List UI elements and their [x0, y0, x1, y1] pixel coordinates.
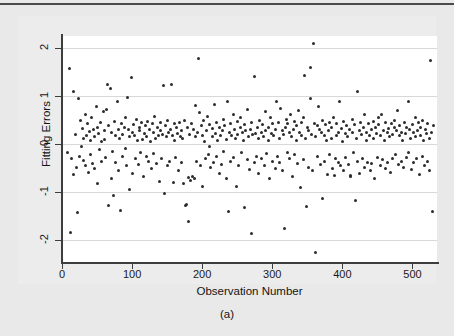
data-point [244, 129, 247, 132]
data-point [402, 166, 405, 169]
data-point [319, 163, 322, 166]
data-point [183, 119, 186, 122]
data-point [358, 172, 361, 175]
data-point [387, 127, 390, 130]
data-point [89, 153, 92, 156]
data-point [304, 137, 307, 140]
data-point [81, 127, 84, 130]
data-point [377, 116, 380, 119]
data-point [262, 135, 265, 138]
data-point [72, 173, 75, 176]
data-point [219, 134, 222, 137]
data-point [330, 126, 333, 129]
data-point [412, 161, 415, 164]
data-point [82, 159, 85, 162]
data-point [173, 122, 176, 125]
data-point [112, 194, 115, 197]
data-point [195, 160, 198, 163]
data-point [201, 134, 204, 137]
data-point [400, 160, 403, 163]
data-point [277, 121, 280, 124]
data-point [212, 161, 215, 164]
data-point [335, 122, 338, 125]
data-point [246, 108, 249, 111]
data-point [209, 166, 212, 169]
data-point [69, 231, 72, 234]
gridline-y-2 [62, 144, 437, 145]
data-point [236, 120, 239, 123]
data-point [366, 161, 369, 164]
data-point [157, 134, 160, 137]
data-point [218, 172, 221, 175]
x-tick-label-5: 500 [392, 268, 432, 280]
data-point [166, 164, 169, 167]
data-point [316, 124, 319, 127]
data-point [198, 111, 201, 114]
data-point [203, 140, 206, 143]
data-point [260, 157, 263, 160]
data-point [229, 160, 232, 163]
data-point [340, 127, 343, 130]
data-point [100, 160, 103, 163]
data-point [395, 129, 398, 132]
data-point [415, 157, 418, 160]
data-point [316, 155, 319, 158]
data-point [166, 119, 169, 122]
data-point [121, 133, 124, 136]
data-point [168, 160, 171, 163]
data-point [271, 122, 274, 125]
data-point [105, 108, 108, 111]
x-axis-title: Observation Number [62, 285, 437, 297]
data-point [237, 164, 240, 167]
data-point [426, 122, 429, 125]
data-point [349, 175, 352, 178]
data-point [193, 177, 196, 180]
data-point [250, 232, 253, 235]
data-point [199, 164, 202, 167]
data-point [109, 87, 112, 90]
data-point [170, 83, 173, 86]
data-point [124, 116, 127, 119]
data-point [160, 157, 163, 160]
data-point [68, 67, 71, 70]
data-point [174, 156, 177, 159]
data-point [246, 158, 249, 161]
data-point [165, 135, 168, 138]
data-point [309, 97, 312, 100]
data-point [291, 175, 294, 178]
data-point [261, 123, 264, 126]
data-point [367, 122, 370, 125]
data-point [411, 123, 414, 126]
data-point [159, 129, 162, 132]
data-point [342, 120, 345, 123]
data-point [162, 84, 165, 87]
data-point [363, 113, 366, 116]
data-point [281, 129, 284, 132]
data-point [187, 220, 190, 223]
data-point [260, 131, 263, 134]
data-point [250, 121, 253, 124]
data-point [188, 133, 191, 136]
data-point [394, 153, 397, 156]
data-point [257, 137, 260, 140]
data-point [303, 74, 306, 77]
data-point [154, 137, 157, 140]
data-point [354, 199, 357, 202]
data-point [300, 121, 303, 124]
data-point [264, 110, 267, 113]
data-point [116, 100, 119, 103]
data-point [296, 162, 299, 165]
data-point [375, 132, 378, 135]
data-point [418, 173, 421, 176]
data-point [155, 162, 158, 165]
data-point [185, 203, 188, 206]
data-point [211, 135, 214, 138]
data-point [431, 210, 434, 213]
y-tick-3 [55, 192, 62, 193]
data-point [149, 140, 152, 143]
data-point [173, 139, 176, 142]
data-point [98, 148, 101, 151]
data-point [330, 137, 333, 140]
data-point [282, 133, 285, 136]
data-point [381, 158, 384, 161]
